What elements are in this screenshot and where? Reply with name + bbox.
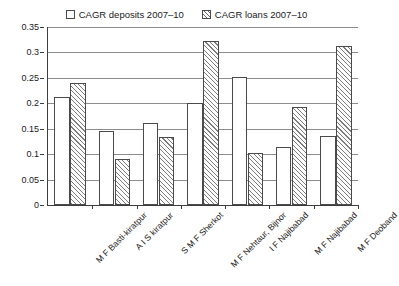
bar-deposits (99, 131, 115, 205)
legend-item-deposits: CAGR deposits 2007–10 (66, 9, 184, 20)
bar-loans (248, 153, 264, 205)
y-axis-tick-label: 0.25 (21, 73, 39, 82)
bar-group (314, 27, 358, 205)
y-axis-tick-mark (40, 129, 44, 130)
chart-legend: CAGR deposits 2007–10 CAGR loans 2007–10 (0, 9, 373, 20)
y-axis-labels: 00.050.10.150.20.250.30.35 (0, 27, 44, 205)
y-axis-tick-mark (40, 78, 44, 79)
bar-loans (203, 41, 219, 205)
y-axis-tick-label: 0.1 (26, 150, 39, 159)
bar-group (137, 27, 181, 205)
bar-deposits (54, 97, 70, 205)
y-axis-tick-mark (40, 52, 44, 53)
bar-deposits (232, 77, 248, 205)
bar-group (269, 27, 313, 205)
y-axis-tick-label: 0.35 (21, 23, 39, 32)
x-axis-category-label: S M F Sherkot (179, 210, 225, 256)
y-axis-tick-mark (40, 180, 44, 181)
bar-group (48, 27, 92, 205)
bar-series-container (48, 27, 358, 205)
bar-group (181, 27, 225, 205)
x-axis-category-label: M F Najibabad (312, 210, 359, 257)
y-axis-tick-label: 0.3 (26, 48, 39, 57)
legend-label-loans: CAGR loans 2007–10 (215, 9, 307, 20)
bar-loans (159, 137, 175, 205)
y-axis-tick-label: 0.2 (26, 99, 39, 108)
y-axis-tick-mark (40, 154, 44, 155)
plain-swatch-icon (66, 10, 75, 19)
bar-deposits (143, 123, 159, 205)
hatched-swatch-icon (202, 10, 211, 19)
bar-deposits (320, 136, 336, 205)
bar-loans (115, 159, 131, 205)
bar-group (92, 27, 136, 205)
y-axis-tick-mark (40, 205, 44, 206)
bar-group (225, 27, 269, 205)
y-axis-tick-label: 0 (34, 201, 39, 210)
bar-loans (336, 46, 352, 205)
legend-label-deposits: CAGR deposits 2007–10 (79, 9, 184, 20)
x-axis-labels: M F Basti-kiratpurA I S kiratpurS M F Sh… (47, 206, 357, 286)
bar-deposits (187, 103, 203, 205)
y-axis-tick-mark (40, 27, 44, 28)
x-axis-tick-mark (358, 205, 359, 209)
bar-deposits (276, 147, 292, 205)
x-axis-category-label: M F Deoband (355, 210, 399, 254)
plot-area (47, 27, 358, 206)
y-axis-tick-label: 0.15 (21, 124, 39, 133)
legend-item-loans: CAGR loans 2007–10 (202, 9, 307, 20)
bar-loans (292, 107, 308, 205)
y-axis-tick-label: 0.05 (21, 175, 39, 184)
y-axis-tick-mark (40, 103, 44, 104)
bar-loans (70, 83, 86, 205)
